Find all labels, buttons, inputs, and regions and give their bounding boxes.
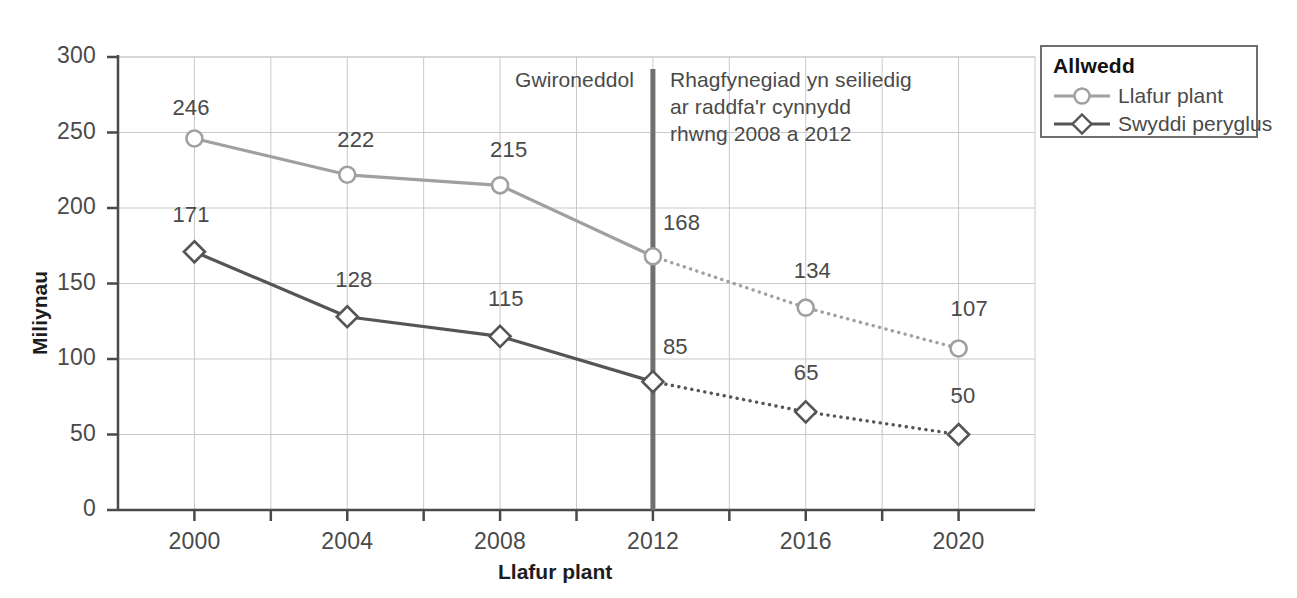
legend-item-label: Llafur plant — [1118, 84, 1223, 108]
data-point-label: 115 — [488, 286, 524, 312]
chart-container: 300250200150100500 200020042008201220162… — [0, 0, 1297, 598]
data-point-label: 107 — [951, 296, 988, 322]
x-axis-tick-label: 2004 — [287, 528, 407, 555]
data-point-label: 128 — [335, 267, 372, 293]
legend-item-label: Swyddi peryglus — [1118, 112, 1272, 136]
legend-diamond-marker-icon — [1053, 113, 1111, 135]
data-point-label: 222 — [337, 127, 374, 153]
data-point-label: 50 — [951, 383, 976, 409]
y-axis-tick-label: 250 — [34, 118, 96, 145]
data-point-label: 65 — [794, 360, 819, 386]
y-axis-tick-label: 200 — [34, 193, 96, 220]
x-axis-tick-label: 2020 — [899, 528, 1019, 555]
data-point-label: 85 — [663, 334, 688, 360]
x-axis-tick-label: 2008 — [440, 528, 560, 555]
data-point-label: 246 — [172, 95, 209, 121]
legend-title: Allwedd — [1053, 54, 1256, 78]
data-point-label: 134 — [794, 258, 831, 284]
data-point-label: 215 — [490, 137, 527, 163]
chart-annotation: Gwironeddol — [515, 66, 635, 93]
x-axis-tick-label: 2012 — [593, 528, 713, 555]
y-axis-tick-label: 0 — [34, 495, 96, 522]
chart-annotation: Rhagfynegiad yn seiliedig ar raddfa'r cy… — [670, 66, 1000, 147]
x-axis-title: Llafur plant — [498, 560, 612, 584]
x-axis-tick-label: 2016 — [746, 528, 866, 555]
data-point-label: 171 — [172, 202, 209, 228]
x-axis-tick-label: 2000 — [134, 528, 254, 555]
legend: Allwedd Llafur plantSwyddi peryglus — [1040, 45, 1258, 138]
data-point-label: 168 — [663, 210, 700, 236]
y-axis-tick-label: 50 — [34, 420, 96, 447]
legend-circle-marker-icon — [1053, 85, 1111, 107]
legend-item-swyddi-peryglus: Swyddi peryglus — [1053, 110, 1256, 138]
y-axis-tick-label: 300 — [34, 42, 96, 69]
legend-item-llafur-plant: Llafur plant — [1053, 82, 1256, 110]
legend-items: Llafur plantSwyddi peryglus — [1053, 82, 1256, 138]
y-axis-title: Miliynau — [28, 271, 52, 355]
